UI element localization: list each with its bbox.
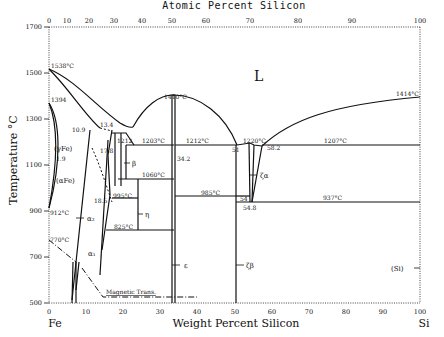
top-tick: 60 bbox=[202, 17, 210, 25]
bottom-tick: 0 bbox=[47, 308, 51, 316]
ann-1-9: 1.9 bbox=[56, 155, 66, 162]
ann-912: 912°C bbox=[50, 209, 69, 216]
y-tick: 1300 bbox=[25, 115, 42, 123]
ann-17-8: 17.8 bbox=[100, 147, 114, 154]
ann-58-2: 58.2 bbox=[267, 144, 281, 151]
phase-labels: L (γFe) (αFe) α₂ α₁ β η ε ζα ζβ (Si) Mag… bbox=[54, 68, 404, 296]
x-axis-label: Weight Percent Silicon bbox=[173, 317, 300, 330]
bottom-tick: 30 bbox=[156, 308, 164, 316]
top-tick: 70 bbox=[246, 17, 254, 25]
bottom-tick: 70 bbox=[305, 308, 313, 316]
y-axis-ticks: 1700 1500 1300 1100 900 700 500 bbox=[25, 23, 42, 307]
ann-1414: 1414°C bbox=[396, 90, 419, 97]
alpha-fe-label: (αFe) bbox=[56, 177, 75, 185]
ann-1212b: 1212°C bbox=[186, 137, 209, 144]
gamma-fe-label: (γFe) bbox=[54, 145, 73, 153]
ann-51: 51 bbox=[232, 146, 240, 153]
y-tick: 500 bbox=[30, 299, 42, 307]
top-tick: 50 bbox=[168, 17, 176, 25]
bottom-tick: 20 bbox=[119, 308, 127, 316]
zeta-beta-label: ζβ bbox=[246, 262, 254, 270]
ann-10-9: 10.9 bbox=[72, 126, 86, 133]
top-tick: 30 bbox=[110, 17, 118, 25]
fe-label: Fe bbox=[48, 317, 62, 330]
magnetic-trans-label: Magnetic Trans. bbox=[106, 288, 156, 296]
top-tick: 10 bbox=[63, 17, 71, 25]
eta-label: η bbox=[145, 211, 149, 219]
top-tick: 0 bbox=[47, 17, 51, 25]
ann-1212a: 1212 bbox=[117, 137, 132, 144]
ann-770: 770°C bbox=[50, 236, 69, 243]
bottom-tick: 80 bbox=[342, 308, 350, 316]
annotations: 1538°C 1394 1.9 912°C 770°C 10.9 13.4 12… bbox=[50, 62, 419, 243]
top-tick: 90 bbox=[348, 17, 356, 25]
ann-1410: 1410°C bbox=[164, 93, 187, 100]
ann-825: 825°C bbox=[114, 223, 133, 230]
ann-1203: 1203°C bbox=[142, 137, 165, 144]
bottom-tick: 50 bbox=[231, 308, 239, 316]
ann-54: 54 bbox=[240, 195, 248, 202]
liquid-label: L bbox=[254, 68, 263, 84]
ann-1538: 1538°C bbox=[51, 62, 74, 69]
y-tick: 1700 bbox=[25, 23, 42, 31]
top-tick: 20 bbox=[85, 17, 93, 25]
y-axis-label: Temperature °C bbox=[7, 115, 20, 204]
top-tick: 40 bbox=[138, 17, 146, 25]
top-axis-title: Atomic Percent Silicon bbox=[162, 0, 305, 11]
alpha2-label: α₂ bbox=[87, 215, 95, 223]
ann-1394: 1394 bbox=[51, 96, 66, 103]
top-tick: 80 bbox=[294, 17, 302, 25]
ann-1207: 1207°C bbox=[324, 137, 347, 144]
top-axis-ticks: 0 10 20 30 40 50 60 70 80 90 100 bbox=[47, 17, 426, 25]
ann-995: 995°C bbox=[113, 192, 132, 199]
y-tick: 1100 bbox=[25, 161, 42, 169]
ann-34-2: 34.2 bbox=[177, 155, 191, 162]
epsilon-label: ε bbox=[184, 262, 188, 270]
y-tick: 900 bbox=[30, 207, 42, 215]
top-tick: 100 bbox=[414, 17, 426, 25]
ann-1060: 1060°C bbox=[142, 171, 165, 178]
ann-937: 937°C bbox=[323, 194, 342, 201]
ann-985: 985°C bbox=[201, 189, 220, 196]
bottom-tick: 10 bbox=[82, 308, 90, 316]
si-label: Si bbox=[418, 317, 430, 330]
bottom-tick: 40 bbox=[193, 308, 201, 316]
bottom-axis-ticks: 0 10 20 30 40 50 60 70 80 90 100 bbox=[47, 308, 426, 316]
ann-1220: 1220°C bbox=[243, 137, 266, 144]
bottom-tick: 60 bbox=[268, 308, 276, 316]
bottom-tick: 100 bbox=[414, 308, 426, 316]
ann-13-4: 13.4 bbox=[100, 121, 114, 128]
y-tick: 1500 bbox=[25, 69, 42, 77]
y-tick: 700 bbox=[30, 253, 42, 261]
alpha1-label: α₁ bbox=[88, 250, 96, 258]
phase-boundaries bbox=[49, 69, 420, 303]
zeta-alpha-label: ζα bbox=[260, 172, 269, 180]
ann-54-8: 54.8 bbox=[243, 204, 257, 211]
bottom-tick: 90 bbox=[379, 308, 387, 316]
phase-diagram: Atomic Percent Silicon 0 10 20 30 40 50 … bbox=[0, 0, 444, 337]
ann-18-5: 18.5 bbox=[94, 197, 108, 204]
beta-label: β bbox=[132, 160, 136, 168]
si-phase-label: (Si) bbox=[391, 265, 404, 273]
